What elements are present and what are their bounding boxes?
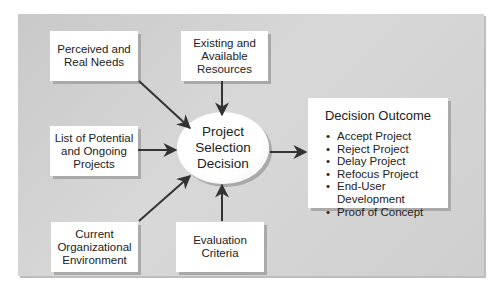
arrow-perceived-to-decision	[139, 81, 190, 128]
connector-arrows	[0, 0, 499, 302]
arrow-current-to-decision	[139, 176, 190, 221]
